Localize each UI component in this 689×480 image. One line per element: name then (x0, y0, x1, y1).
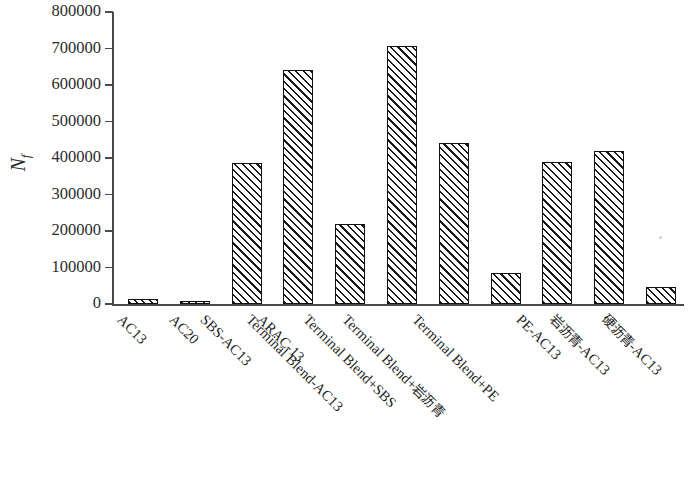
y-axis-tick-label-text: 600000 (52, 76, 102, 92)
bar-6 (387, 46, 417, 304)
y-axis-tick-label-text: 200000 (52, 222, 102, 238)
bar-1 (128, 299, 158, 304)
y-axis-tick-label-text: 500000 (52, 113, 102, 129)
x-label-latin-run: -AC13 (574, 339, 613, 378)
y-axis-tick-label-text: 700000 (52, 40, 102, 56)
bar-7 (439, 143, 469, 304)
y-axis-tick-label: 700000 (0, 40, 101, 56)
x-label-latin-run: AC20 (166, 311, 202, 347)
x-axis-label-2: AC20 (166, 312, 201, 347)
bar-8 (491, 273, 521, 304)
y-axis-tick-label: 400000 (0, 149, 101, 165)
plot-area (114, 12, 684, 304)
bar-9 (542, 162, 572, 304)
y-axis-tick-label: 500000 (0, 113, 101, 129)
x-label-latin-run: -AC13 (626, 339, 665, 378)
fatigue-life-bar-chart: Nf 8000007000006000005000004000003000002… (0, 0, 689, 480)
paper-speck-artifact (659, 236, 662, 239)
y-axis-tick-label: 800000 (0, 3, 101, 19)
x-axis-label-1: AC13 (114, 312, 149, 347)
x-label-cjk-run: 岩沥青 (409, 381, 448, 420)
bar-2 (180, 301, 210, 304)
y-axis-tick-label-text: 800000 (52, 3, 102, 19)
y-axis-tick-label-text: 300000 (52, 186, 102, 202)
bar-3 (232, 163, 262, 304)
y-axis-tick-label: 600000 (0, 76, 101, 92)
y-axis-tick-label: 300000 (0, 186, 101, 202)
bar-5 (335, 224, 365, 304)
bar-10 (594, 151, 624, 304)
bar-4 (283, 70, 313, 304)
x-label-latin-run: AC13 (114, 311, 150, 347)
y-axis-tick-label: 200000 (0, 222, 101, 238)
y-axis-tick-label-text: 400000 (52, 149, 102, 165)
y-axis-tick-label-text: 100000 (52, 259, 102, 275)
x-axis-labels: AC13AC20SBS-AC13ARAC-13Terminal Blend-AC… (0, 306, 689, 480)
x-label-latin-run: Terminal Blend-AC13 (243, 311, 346, 414)
x-axis-label-5: Terminal Blend-AC13 (243, 312, 345, 414)
bar-11 (646, 287, 676, 304)
y-axis-tick-label: 100000 (0, 259, 101, 275)
